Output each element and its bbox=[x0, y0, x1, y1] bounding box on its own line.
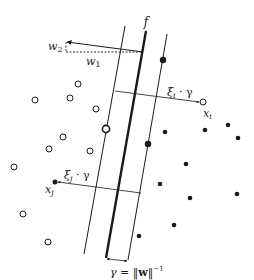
open-data-point bbox=[11, 164, 17, 170]
filled-points-group bbox=[137, 123, 241, 239]
decision-function-label: f bbox=[143, 15, 151, 29]
filled-data-point bbox=[188, 196, 193, 201]
open-data-point bbox=[93, 106, 99, 112]
gamma-equation-label: γ = ‖w‖−1 bbox=[110, 265, 164, 280]
x-i-point bbox=[200, 99, 206, 105]
open-data-point bbox=[32, 97, 38, 103]
filled-data-point bbox=[172, 223, 177, 228]
weight-vector-arrow bbox=[67, 42, 143, 52]
gamma-w-bold: w bbox=[137, 266, 148, 279]
x-i-label-sub: i bbox=[209, 112, 212, 121]
w1-label-sub: 1 bbox=[95, 60, 100, 69]
filled-data-point bbox=[226, 123, 231, 128]
open-support-vector bbox=[102, 125, 109, 132]
open-data-point bbox=[46, 146, 52, 152]
xi-j-label-rest: · γ bbox=[73, 169, 90, 182]
open-data-point bbox=[87, 148, 93, 154]
open-data-point bbox=[67, 95, 73, 101]
open-data-point bbox=[75, 81, 81, 87]
filled-support-vector bbox=[145, 141, 151, 147]
decision-boundary-line bbox=[106, 31, 146, 258]
filled-data-point bbox=[163, 130, 168, 135]
xi-j-slack-arrow bbox=[58, 182, 141, 193]
svm-margin-diagram: f w2 w1 ξi · γ xi ξj · γ xj γ = ‖w‖−1 bbox=[0, 0, 254, 280]
open-points-group bbox=[11, 81, 99, 245]
x-j-label: xj bbox=[45, 183, 54, 197]
gamma-eq-part: γ = ‖ bbox=[110, 266, 138, 280]
filled-support-vector bbox=[160, 57, 166, 63]
xi-i-label-rest: · γ bbox=[176, 86, 193, 99]
gamma-exponent: −1 bbox=[153, 265, 163, 273]
filled-data-point bbox=[236, 136, 241, 141]
filled-data-point bbox=[158, 182, 163, 187]
filled-data-point bbox=[235, 192, 240, 197]
w1-label: w1 bbox=[86, 55, 101, 69]
filled-data-point bbox=[184, 162, 189, 167]
open-data-point bbox=[45, 239, 51, 245]
x-j-point bbox=[53, 180, 58, 185]
filled-data-point bbox=[137, 234, 142, 239]
x-i-label: xi bbox=[203, 107, 212, 121]
w2-label: w2 bbox=[48, 40, 63, 54]
filled-data-point bbox=[203, 128, 208, 133]
w2-label-sub: 2 bbox=[57, 45, 62, 54]
xi-i-label: ξi · γ bbox=[167, 86, 193, 100]
xi-j-label: ξj · γ bbox=[64, 169, 90, 183]
gamma-margin-arrow bbox=[107, 259, 127, 261]
open-data-point bbox=[20, 211, 26, 217]
open-data-point bbox=[60, 134, 66, 140]
